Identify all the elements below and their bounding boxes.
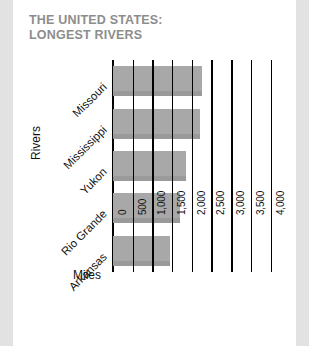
y-tick-label-missouri: Missouri (33, 81, 109, 157)
chart-card: THE UNITED STATES: LONGEST RIVERS Miles … (13, 0, 296, 346)
plot-area (113, 60, 271, 272)
gridline-2500 (211, 60, 212, 272)
x-tick-label: 500 (137, 199, 148, 215)
gridline-4000 (271, 60, 272, 272)
gridline-1000 (152, 60, 153, 272)
gridline-2000 (192, 60, 193, 272)
y-tick-label-yukon: Yukon (33, 166, 109, 242)
bar-shadow (113, 218, 180, 223)
bar-shadow (113, 176, 186, 181)
x-tick-label: 0 (117, 210, 128, 215)
title-line-1: THE UNITED STATES: (29, 13, 269, 28)
y-tick-label-mississippi: Mississippi (33, 123, 109, 199)
bar-shadow (113, 261, 170, 266)
x-tick-label: 3,000 (235, 191, 246, 215)
x-tick-label: 1,000 (156, 191, 167, 215)
bar-shadow (113, 91, 202, 96)
x-tick-label: 3,500 (255, 191, 266, 215)
x-tick-label: 2,000 (196, 191, 207, 215)
gridline-3500 (251, 60, 252, 272)
gridline-1500 (172, 60, 173, 272)
x-tick-label: 4,000 (275, 191, 286, 215)
page-title: THE UNITED STATES: LONGEST RIVERS (29, 13, 269, 42)
title-line-2: LONGEST RIVERS (29, 28, 269, 43)
x-tick-label: 1,500 (176, 191, 187, 215)
bar-shadow (113, 134, 200, 139)
gridline-500 (133, 60, 134, 272)
y-tick-label-arkansas: Arkansas (33, 250, 109, 326)
gridline-3000 (231, 60, 232, 272)
x-tick-label: 2,500 (215, 191, 226, 215)
